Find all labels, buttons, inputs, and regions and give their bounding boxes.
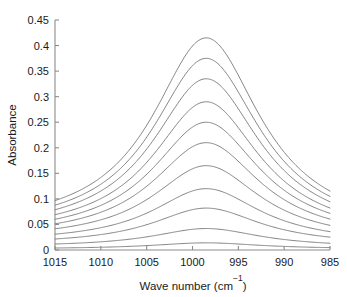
x-tick-label: 1015	[43, 256, 67, 268]
x-tick-label: 985	[321, 256, 339, 268]
y-tick-label: 0.45	[28, 14, 49, 26]
chart-canvas: 00.050.10.150.20.250.30.350.40.451015101…	[0, 0, 347, 297]
x-axis-title-close: )	[243, 280, 247, 292]
y-tick-label: 0.25	[28, 116, 49, 128]
y-tick-label: 0.05	[28, 218, 49, 230]
x-tick-label: 990	[275, 256, 293, 268]
spectrum-curve	[55, 143, 330, 224]
spectrum-curve	[55, 38, 330, 201]
y-axis-title: Absorbance	[6, 104, 18, 165]
y-tick-label: 0.35	[28, 65, 49, 77]
chart-tick-labels: 00.050.10.150.20.250.30.350.40.451015101…	[28, 14, 340, 268]
x-tick-label: 995	[229, 256, 247, 268]
spectrum-curve	[55, 58, 330, 205]
x-tick-label: 1000	[180, 256, 204, 268]
x-axis-title: Wave number (cm−1)	[139, 273, 246, 292]
spectrum-curve	[55, 189, 330, 235]
spectrum-curve	[55, 79, 330, 210]
spectra-curves	[55, 38, 330, 248]
y-tick-label: 0.4	[34, 40, 49, 52]
y-tick-label: 0	[43, 244, 49, 256]
spectrum-curve	[55, 102, 330, 215]
x-tick-label: 1010	[89, 256, 113, 268]
x-axis-title-base: Wave number (cm	[139, 280, 233, 292]
chart-axes	[55, 20, 330, 250]
y-tick-label: 0.15	[28, 167, 49, 179]
absorbance-spectra-figure: 00.050.10.150.20.250.30.350.40.451015101…	[0, 0, 347, 297]
x-axis-title-superscript: −1	[233, 273, 243, 283]
y-tick-label: 0.3	[34, 91, 49, 103]
x-tick-label: 1005	[134, 256, 158, 268]
spectrum-curve	[55, 122, 330, 219]
y-tick-label: 0.1	[34, 193, 49, 205]
y-tick-label: 0.2	[34, 142, 49, 154]
